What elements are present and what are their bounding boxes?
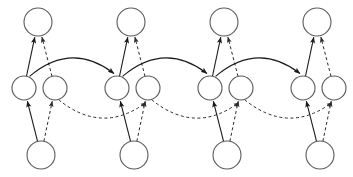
edge-ml2-to-t2 [119, 37, 127, 76]
graph-svg [0, 0, 353, 177]
edge-b1-to-ml1 [27, 101, 37, 141]
edge-b3-to-mr3 [230, 101, 238, 141]
node-b2 [120, 141, 148, 169]
edge-b3-to-ml3 [213, 101, 223, 141]
edge-mr1-to-mr2 [59, 100, 146, 118]
edge-ml2-to-ml3 [123, 58, 207, 76]
edge-mr2-to-t2 [135, 37, 145, 76]
node-b4 [306, 141, 334, 169]
edge-ml1-to-t1 [26, 37, 34, 76]
edge-mr4-to-t4 [321, 37, 331, 76]
edge-b2-to-mr2 [137, 101, 145, 141]
edge-ml1-to-ml2 [30, 58, 114, 76]
edge-mr3-to-t3 [228, 37, 238, 76]
edge-ml3-to-t3 [212, 37, 220, 76]
node-mr3 [229, 76, 253, 100]
node-b3 [213, 141, 241, 169]
node-mr4 [322, 76, 346, 100]
node-mr2 [136, 76, 160, 100]
node-ml4 [291, 76, 315, 100]
edge-b4-to-ml4 [306, 101, 316, 141]
node-ml3 [198, 76, 222, 100]
node-mr1 [43, 76, 67, 100]
edge-ml4-to-t4 [305, 37, 313, 76]
node-ml1 [12, 76, 36, 100]
edge-mr1-to-t1 [42, 37, 52, 76]
edge-layer [26, 37, 332, 141]
edge-b1-to-mr1 [44, 101, 52, 141]
node-t1 [24, 8, 52, 36]
node-b1 [27, 141, 55, 169]
node-ml2 [105, 76, 129, 100]
node-layer [12, 8, 346, 169]
diagram-canvas [0, 0, 353, 177]
edge-mr2-to-mr3 [152, 100, 239, 118]
node-t3 [210, 8, 238, 36]
edge-mr3-to-mr4 [245, 100, 332, 118]
edge-ml3-to-ml4 [216, 58, 300, 76]
edge-b4-to-mr4 [323, 101, 331, 141]
node-t4 [303, 8, 331, 36]
node-t2 [117, 8, 145, 36]
edge-b2-to-ml2 [120, 101, 130, 141]
